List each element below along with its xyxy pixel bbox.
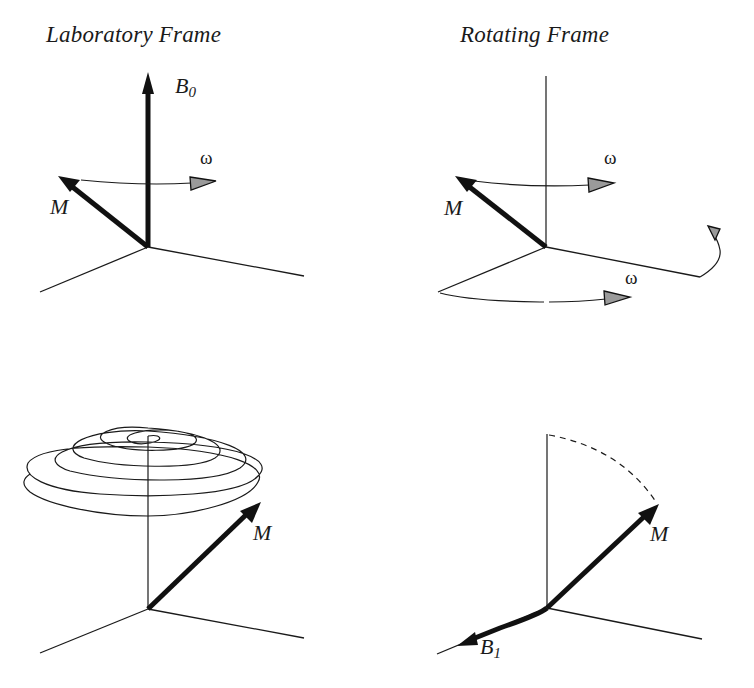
rot-omega-top-label: ω xyxy=(604,148,617,167)
omega-arrowhead-icon xyxy=(604,291,630,305)
rot-omega-arc-bottom xyxy=(440,291,630,305)
rotating-frame-title: Rotating Frame xyxy=(460,22,609,48)
b1-label-sub: 1 xyxy=(493,645,501,661)
tipped-axis-right xyxy=(547,608,702,639)
lab-frame-panel xyxy=(40,72,304,292)
lab-m-label: M xyxy=(50,196,68,218)
lab-axis-right xyxy=(148,247,304,276)
m-vector-arrow xyxy=(148,502,261,609)
precession-spiral xyxy=(24,427,262,516)
b1-label: B1 xyxy=(480,636,501,661)
m-vector-arrow xyxy=(455,176,546,247)
nutation-arc-dashed xyxy=(549,435,656,502)
rot-omega-bottom-label: ω xyxy=(625,268,638,287)
rotation-arrowhead-icon xyxy=(708,226,720,240)
b1-label-main: B xyxy=(480,634,493,659)
rot-m-label: M xyxy=(444,197,462,219)
rotating-frame-panel xyxy=(438,76,720,305)
b0-label-main: B xyxy=(175,73,188,98)
lab-omega-label: ω xyxy=(200,148,213,167)
lab-axis-left xyxy=(40,247,148,292)
rot-omega-arc-top xyxy=(474,178,614,192)
spiral-axis-left xyxy=(40,609,148,653)
spiral-m-label: M xyxy=(253,522,271,544)
b1-vector-arrow xyxy=(457,608,547,646)
omega-arrowhead-icon xyxy=(588,178,614,192)
rot-axis-left xyxy=(438,247,546,292)
nmr-frames-diagram: Laboratory Frame Rotating Frame B0 M ω M… xyxy=(0,0,754,688)
rot-axis-right xyxy=(546,247,700,277)
tipped-m-label: M xyxy=(650,523,668,545)
diagram-canvas xyxy=(0,0,754,688)
omega-arrowhead-icon xyxy=(190,177,216,190)
rot-axis-rotation-arrow xyxy=(700,226,720,277)
b0-label-sub: 0 xyxy=(188,84,196,100)
m-vector-arrow xyxy=(58,176,148,247)
lab-frame-title: Laboratory Frame xyxy=(46,22,221,48)
spiral-axis-right xyxy=(148,609,304,638)
b0-vector-arrow xyxy=(142,72,154,247)
b0-label: B0 xyxy=(175,75,196,100)
m-vector-arrow xyxy=(547,504,659,608)
